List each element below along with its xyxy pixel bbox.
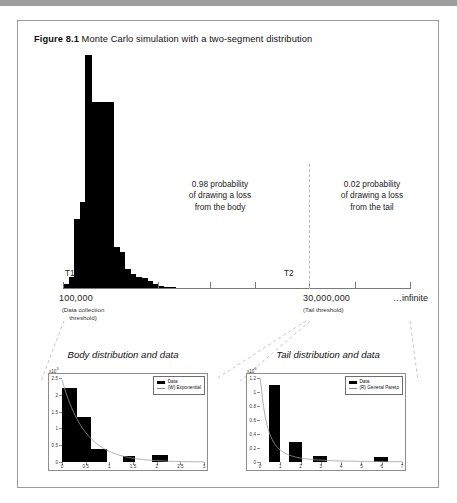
y-tick-label: 0.4 <box>246 432 256 437</box>
body-probability-note: 0.98 probability of drawing a loss from … <box>166 179 274 213</box>
y-tick-label: 0.6 <box>246 418 256 423</box>
main-histogram-bars <box>63 55 411 289</box>
y-tick-label: 1 <box>246 390 256 395</box>
tail-threshold-sub: (Tail threshold) <box>303 306 373 314</box>
figure-page: Figure 8.1 Monte Carlo simulation with a… <box>0 0 457 503</box>
tail-probability-line3: from the tail <box>318 202 426 213</box>
tail-threshold-value: 30,000,000 <box>303 293 350 303</box>
main-chart: T1 T2 100,000 (Data collection threshold… <box>18 45 438 295</box>
body-probability-line3: from the body <box>166 202 274 213</box>
x-tick-label: 0 <box>259 464 262 469</box>
tail-probability-note: 0.02 probability of drawing a loss from … <box>318 179 426 213</box>
figure-container: Figure 8.1 Monte Carlo simulation with a… <box>17 20 439 488</box>
body-legend: Data (W) Exponential <box>153 376 205 395</box>
page-header-band <box>0 0 457 6</box>
y-tick-mark <box>59 445 62 446</box>
y-tick-label: 1.5 <box>48 409 58 414</box>
tail-threshold-dashed-line <box>309 164 310 289</box>
x-tick-label: 0 <box>61 464 64 469</box>
figure-number: Figure 8.1 <box>34 34 79 44</box>
x-tick-label: 4 <box>340 464 343 469</box>
tail-probability-line2: of drawing a loss <box>318 190 426 201</box>
y-tick-mark <box>59 395 62 396</box>
y-tick-mark <box>59 412 62 413</box>
y-tick-label: 1.2 <box>246 376 256 381</box>
x-tick-label: 6 <box>380 464 383 469</box>
y-tick-label: 0 <box>48 460 58 465</box>
y-tick-mark <box>257 420 260 421</box>
x-tick-label: 2.5 <box>177 464 183 469</box>
x-tick-label: 2 <box>155 464 158 469</box>
axis-tick <box>255 282 256 289</box>
axis-tick <box>210 282 211 289</box>
body-subchart-title: Body distribution and data <box>28 349 218 360</box>
tail-probability-line1: 0.02 probability <box>318 179 426 190</box>
y-tick-mark <box>257 448 260 449</box>
line-swatch-icon <box>349 388 357 389</box>
x-tick-label: 2 <box>299 464 302 469</box>
bar-swatch-icon <box>157 381 165 384</box>
infinite-label: …infinite <box>393 293 428 303</box>
t2-marker: T2 <box>284 269 294 278</box>
y-tick-mark <box>59 378 62 379</box>
main-axis-line <box>63 288 411 289</box>
y-tick-mark <box>59 428 62 429</box>
body-legend-row-curve: (W) Exponential <box>157 385 201 391</box>
line-swatch-icon <box>157 388 165 389</box>
axis-tick <box>158 282 159 289</box>
y-tick-label: 0 <box>246 460 256 465</box>
y-tick-label: 2 <box>48 392 58 397</box>
axis-tick <box>63 282 64 289</box>
y-tick-label: 0.2 <box>246 446 256 451</box>
axis-tick <box>410 282 411 289</box>
figure-caption-text: Monte Carlo simulation with a two-segmen… <box>82 34 313 44</box>
body-y-multiplier: x103 <box>49 367 59 374</box>
y-tick-label: 0.8 <box>246 404 256 409</box>
body-probability-line1: 0.98 probability <box>166 179 274 190</box>
body-subchart: 00.511.522.500.511.522.53 x103 Data (W) … <box>48 373 208 471</box>
data-collection-threshold-value: 100,000 <box>59 293 93 303</box>
y-tick-mark <box>257 434 260 435</box>
x-tick-label: 1 <box>108 464 111 469</box>
x-tick-label: 1.5 <box>130 464 136 469</box>
data-collection-threshold-sub: (Data collection threshold) <box>40 306 126 321</box>
tail-subchart-title: Tail distribution and data <box>233 349 423 360</box>
x-tick-label: 3 <box>320 464 323 469</box>
tail-legend-curve-label: (R) General Pareto <box>359 385 399 391</box>
y-tick-label: 2.5 <box>48 376 58 381</box>
y-tick-mark <box>257 406 260 407</box>
tail-y-multiplier: x106 <box>247 367 257 374</box>
x-tick-label: 5 <box>360 464 363 469</box>
y-tick-label: 0.5 <box>48 443 58 448</box>
body-legend-curve-label: (W) Exponential <box>168 385 201 391</box>
body-probability-line2: of drawing a loss <box>166 190 274 201</box>
tail-legend: Data (R) General Pareto <box>345 376 403 395</box>
axis-tick <box>355 282 356 289</box>
x-tick-label: 0.5 <box>82 464 88 469</box>
y-tick-mark <box>257 378 260 379</box>
x-tick-label: 3 <box>203 464 206 469</box>
t1-marker: T1 <box>65 269 75 278</box>
tail-subchart: 00.20.40.60.811.201234567 x106 Data (R) … <box>246 373 406 471</box>
x-tick-label: 1 <box>279 464 282 469</box>
figure-caption: Figure 8.1 Monte Carlo simulation with a… <box>34 33 424 45</box>
bar-swatch-icon <box>349 381 357 384</box>
data-collection-threshold-sub-line1: (Data collection <box>40 306 126 314</box>
tail-legend-row-curve: (R) General Pareto <box>349 385 399 391</box>
data-collection-threshold-sub-line2: threshold) <box>40 314 126 322</box>
y-tick-label: 1 <box>48 426 58 431</box>
x-tick-label: 7 <box>401 464 404 469</box>
y-tick-mark <box>257 392 260 393</box>
